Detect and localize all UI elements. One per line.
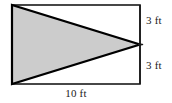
geometry-figure: 3 ft 3 ft 10 ft bbox=[0, 0, 172, 103]
dimension-label-bottom: 10 ft bbox=[0, 88, 152, 99]
dimension-label-right-top: 3 ft bbox=[146, 15, 162, 26]
dimension-label-right-bottom: 3 ft bbox=[146, 60, 162, 71]
